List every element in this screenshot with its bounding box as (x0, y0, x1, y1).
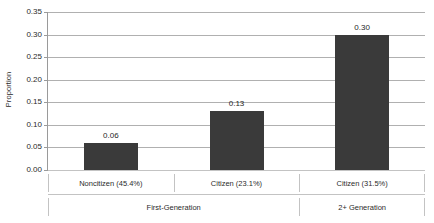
bar (84, 143, 138, 170)
group-axis-row: First-Generation2+ Generation (48, 194, 425, 219)
category-axis-edge-tick (424, 174, 425, 192)
category-separator (299, 174, 300, 192)
y-axis-tick-label: 0.35 (26, 8, 42, 16)
gridline (48, 12, 425, 13)
y-axis-tick-label: 0.05 (26, 143, 42, 151)
group-separator (299, 198, 300, 216)
bar-value-label: 0.13 (229, 100, 245, 108)
group-axis-edge-tick (424, 198, 425, 216)
y-axis-tick-label: 0.30 (26, 31, 42, 39)
category-label: Citizen (31.5%) (299, 171, 425, 195)
y-axis-title-label: Proportion (5, 71, 14, 107)
category-separator (174, 174, 175, 192)
y-axis-tick-label: 0.25 (26, 53, 42, 61)
category-axis-edge-tick (48, 174, 49, 192)
bar-chart: Proportion 0.000.050.100.150.200.250.300… (0, 0, 434, 223)
category-label: Citizen (23.1%) (174, 171, 300, 195)
group-label: 2+ Generation (299, 195, 425, 219)
y-axis-tick-label: 0.00 (26, 166, 42, 174)
bar-value-label: 0.06 (103, 132, 119, 140)
y-axis-tick (44, 57, 48, 58)
y-axis-title: Proportion (0, 0, 18, 178)
y-axis-tick (44, 102, 48, 103)
y-axis-tick-label: 0.15 (26, 98, 42, 106)
category-axis-row: Noncitizen (45.4%)Citizen (23.1%)Citizen… (48, 170, 425, 195)
bar-value-label: 0.30 (354, 24, 370, 32)
bar (210, 111, 264, 170)
y-axis-tick (44, 12, 48, 13)
y-axis-tick (44, 80, 48, 81)
group-label: First-Generation (48, 195, 299, 219)
group-axis-edge-tick (48, 198, 49, 216)
y-axis-tick-label: 0.10 (26, 121, 42, 129)
y-axis-tick (44, 147, 48, 148)
bar (335, 35, 389, 170)
y-axis-tick-label: 0.20 (26, 76, 42, 84)
category-label: Noncitizen (45.4%) (48, 171, 174, 195)
plot-area: 0.000.050.100.150.200.250.300.35 0.060.1… (48, 12, 425, 170)
y-axis-tick (44, 125, 48, 126)
y-axis-tick (44, 35, 48, 36)
